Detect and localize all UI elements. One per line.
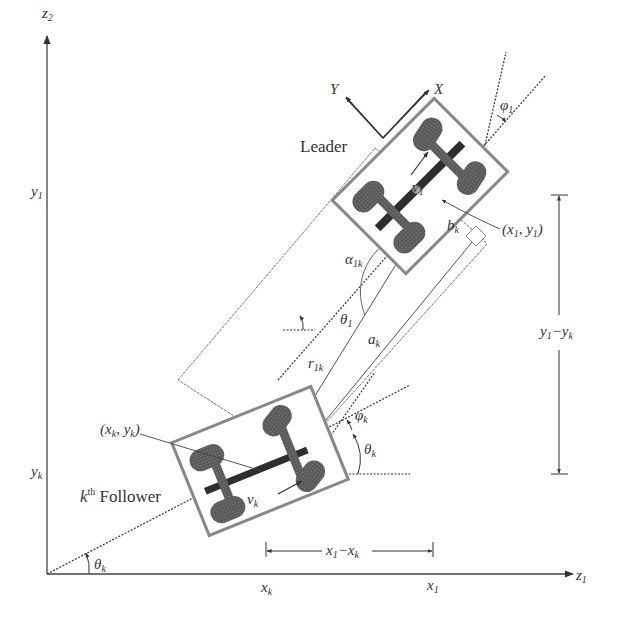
r-label: r1k bbox=[308, 356, 323, 371]
a-label: ak bbox=[368, 332, 380, 347]
leader-position-label: (x1, y1) bbox=[502, 222, 543, 237]
xk-tick-label: xk bbox=[261, 580, 272, 595]
b-label: bk bbox=[447, 218, 459, 233]
body-x-label: X bbox=[434, 82, 443, 97]
leader-theta-arc bbox=[300, 316, 303, 330]
x1-tick-label: x1 bbox=[427, 578, 439, 593]
diagram-canvas: z2 z1 y1 yk xk x1 Leader kth Follower Y … bbox=[0, 0, 621, 630]
alpha-label: α1k bbox=[345, 252, 362, 267]
body-y-axis bbox=[346, 97, 383, 138]
right-angle-marker bbox=[466, 226, 486, 246]
follower-theta-arc bbox=[353, 434, 360, 474]
leader-steer-label: φ1 bbox=[500, 98, 513, 113]
follower-heading-label: θk bbox=[364, 442, 376, 457]
follower-steer-label: φk bbox=[355, 408, 368, 423]
body-y-label: Y bbox=[330, 82, 338, 97]
leader-phi-arc bbox=[497, 115, 506, 122]
dx-label: x1−xk bbox=[326, 543, 359, 558]
follower-vehicle bbox=[172, 387, 349, 537]
z2-axis-label: z2 bbox=[42, 6, 53, 21]
origin-theta-arc bbox=[86, 553, 89, 574]
follower-phi-arc bbox=[347, 420, 352, 430]
follower-position-label: (xk, yk) bbox=[100, 422, 140, 437]
leader-heading-label: θ1 bbox=[340, 312, 352, 327]
yk-tick-label: yk bbox=[31, 464, 42, 479]
origin-heading-label: θk bbox=[94, 557, 106, 572]
y1-tick-label: y1 bbox=[31, 184, 43, 199]
dy-label: y1−yk bbox=[540, 324, 573, 339]
diagram-svg bbox=[0, 0, 621, 630]
leader-label: Leader bbox=[300, 138, 347, 155]
follower-velocity-label: vk bbox=[247, 492, 258, 507]
follower-label: kth Follower bbox=[80, 488, 161, 505]
leader-velocity-label: v1 bbox=[412, 180, 424, 195]
z1-axis-label: z1 bbox=[576, 568, 587, 583]
